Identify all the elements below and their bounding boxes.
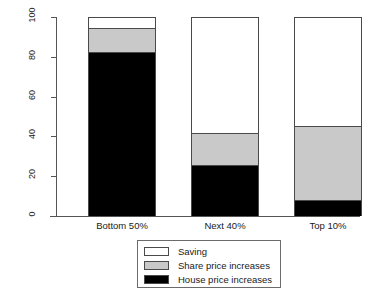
x-axis-label-bottom-50: Bottom 50% bbox=[67, 220, 177, 231]
stacked-bar-chart: Contribution to wealth growth (%) 100 80… bbox=[0, 0, 392, 295]
y-axis-line bbox=[56, 17, 57, 216]
y-tick-label-40: 40 bbox=[27, 121, 37, 147]
bar-bottom-50[interactable] bbox=[88, 17, 156, 216]
bar-top-10[interactable] bbox=[294, 17, 362, 216]
bar-segment-saving bbox=[88, 17, 156, 29]
legend-item-house-price-increases[interactable]: House price increases bbox=[144, 273, 275, 286]
bar-segment-house bbox=[294, 201, 362, 216]
y-tick-mark-40 bbox=[51, 136, 56, 137]
chart-legend: Saving Share price increases House price… bbox=[137, 240, 281, 288]
legend-item-share-price-increases[interactable]: Share price increases bbox=[144, 259, 275, 272]
y-tick-mark-80 bbox=[51, 57, 56, 58]
y-tick-mark-100 bbox=[51, 17, 56, 18]
bar-segment-house bbox=[88, 53, 156, 216]
legend-label-share-price-increases: Share price increases bbox=[178, 259, 270, 272]
bar-segment-share bbox=[294, 127, 362, 201]
legend-item-saving[interactable]: Saving bbox=[144, 245, 275, 258]
y-tick-mark-60 bbox=[51, 97, 56, 98]
x-axis-label-top-10: Top 10% bbox=[273, 220, 383, 231]
y-tick-mark-0 bbox=[51, 216, 56, 217]
y-tick-label-80: 80 bbox=[27, 42, 37, 68]
bar-segment-share bbox=[191, 134, 259, 166]
y-tick-mark-20 bbox=[51, 176, 56, 177]
y-tick-label-60: 60 bbox=[27, 82, 37, 108]
bar-segment-house bbox=[191, 166, 259, 216]
legend-swatch-saving-icon bbox=[144, 247, 169, 256]
bar-segment-saving bbox=[294, 17, 362, 127]
bar-next-40[interactable] bbox=[191, 17, 259, 216]
plot-area: 100 80 60 40 20 0 Bottom 50% Next 40% To… bbox=[56, 17, 360, 216]
y-tick-label-0: 0 bbox=[27, 201, 37, 227]
legend-swatch-house-icon bbox=[144, 275, 169, 284]
legend-label-house-price-increases: House price increases bbox=[178, 273, 272, 286]
y-tick-label-100: 100 bbox=[27, 2, 37, 28]
x-axis-line bbox=[50, 216, 360, 217]
bar-segment-share bbox=[88, 29, 156, 53]
legend-swatch-share-icon bbox=[144, 261, 169, 270]
y-tick-label-20: 20 bbox=[27, 161, 37, 187]
x-axis-label-next-40: Next 40% bbox=[170, 220, 280, 231]
bar-segment-saving bbox=[191, 17, 259, 134]
legend-label-saving: Saving bbox=[178, 245, 207, 258]
